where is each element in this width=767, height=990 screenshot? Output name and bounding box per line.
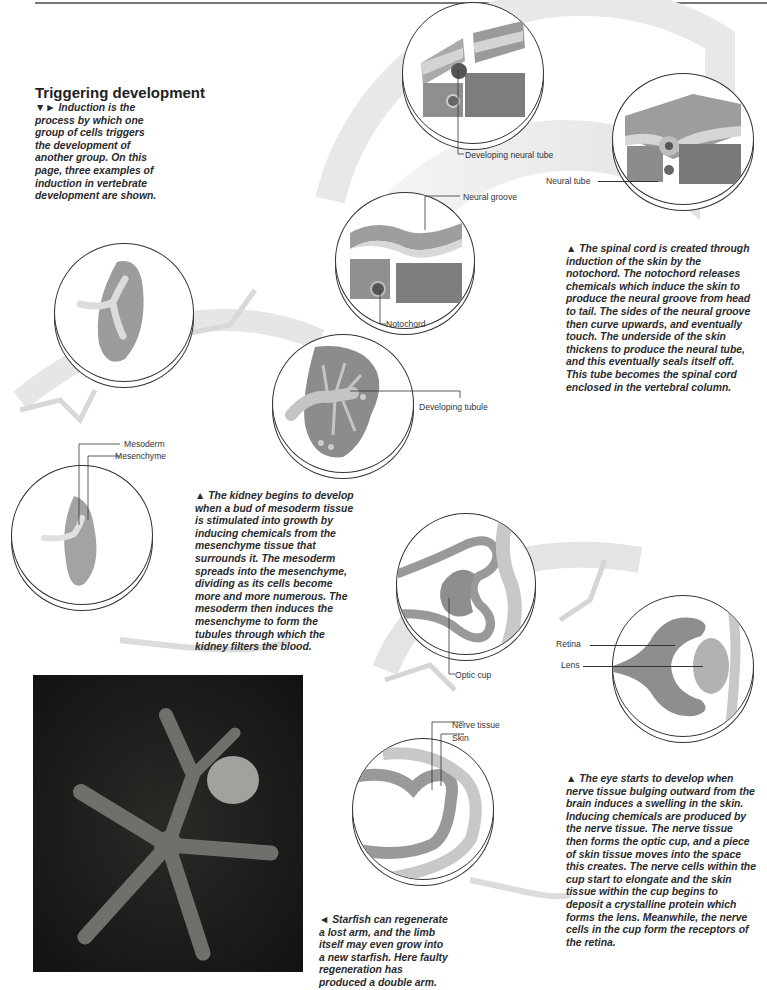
nerve-tissue-skin-illustration xyxy=(353,739,493,879)
optic-cup-illustration xyxy=(397,514,535,654)
label-skin: Skin xyxy=(452,733,469,743)
caption-text: Starfish can regenerate a lost arm, and … xyxy=(319,914,448,988)
caption-marker: ▲ xyxy=(566,243,576,254)
starfish-caption: ◄ Starfish can regenerate a lost arm, an… xyxy=(319,914,449,990)
neural-tube-closed-illustration xyxy=(613,74,753,204)
neural-tube-leader xyxy=(598,181,658,182)
eye-caption: ▲ The eye starts to develop when nerve t… xyxy=(566,773,756,949)
intro-text: Induction is the process by which one gr… xyxy=(35,102,156,201)
developing-neural-tube-leader xyxy=(450,70,466,160)
intro-caption: ▼► Induction is the process by which one… xyxy=(35,102,160,203)
nerve-tissue-skin-leaders xyxy=(428,718,468,798)
lens-leader xyxy=(583,666,703,667)
intro-markers: ▼► xyxy=(35,102,56,113)
label-mesoderm: Mesoderm xyxy=(124,439,165,449)
caption-text: The spinal cord is created through induc… xyxy=(566,243,750,393)
caption-marker: ◄ xyxy=(319,914,329,925)
diagram-neural-tube xyxy=(612,73,754,205)
optic-cup-leader xyxy=(445,598,461,680)
label-developing-tubule: Developing tubule xyxy=(419,402,488,412)
caption-marker: ▲ xyxy=(195,490,205,501)
diagram-developing-neural-tube xyxy=(402,2,544,144)
label-nerve-tissue: Nerve tissue xyxy=(452,720,500,730)
label-mesenchyme: Mesenchyme xyxy=(115,451,166,461)
label-lens: Lens xyxy=(561,660,580,670)
label-retina: Retina xyxy=(556,639,581,649)
label-notochord: Notochord xyxy=(386,319,426,329)
caption-text: The kidney begins to develop when a bud … xyxy=(195,490,354,652)
label-neural-groove: Neural groove xyxy=(463,192,517,202)
starfish-illustration xyxy=(33,675,303,972)
kidney-caption: ▲ The kidney begins to develop when a bu… xyxy=(195,490,355,654)
section-title: Triggering development xyxy=(35,84,205,101)
label-neural-tube: Neural tube xyxy=(546,176,590,186)
caption-text: The eye starts to develop when nerve tis… xyxy=(566,773,756,948)
diagram-optic-cup xyxy=(396,513,536,655)
caption-marker: ▲ xyxy=(566,773,576,784)
label-optic-cup: Optic cup xyxy=(455,670,491,680)
kidney-bud-illustration xyxy=(55,244,193,381)
neural-tube-block-illustration xyxy=(403,3,543,143)
retina-leader xyxy=(590,645,675,646)
label-developing-neural-tube: Developing neural tube xyxy=(465,150,553,160)
diagram-kidney-bud-early xyxy=(54,243,194,382)
starfish-photo xyxy=(33,675,303,972)
spinal-cord-caption: ▲ The spinal cord is created through ind… xyxy=(566,243,756,394)
diagram-nerve-tissue-skin xyxy=(352,738,494,880)
